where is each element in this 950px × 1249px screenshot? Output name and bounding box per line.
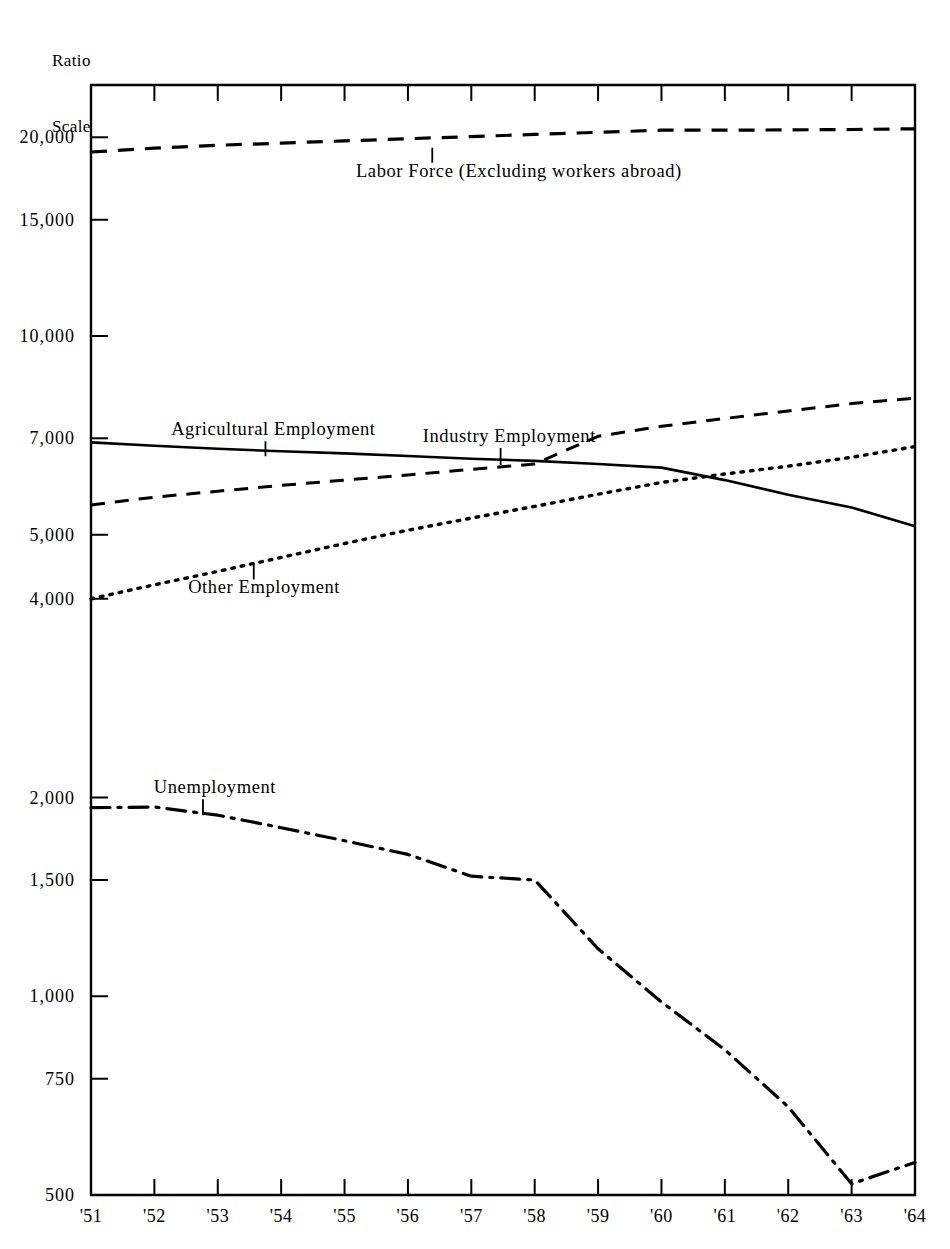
y-tick-label: 5,000 [30, 525, 76, 545]
series-line [91, 442, 915, 526]
y-tick-label: 750 [45, 1069, 75, 1089]
y-tick-label: 1,500 [30, 870, 76, 890]
y-tick-label: 1,000 [30, 986, 76, 1006]
y-tick-label: 7,000 [30, 428, 76, 448]
axis-frame [91, 85, 915, 1195]
x-tick-label: '64 [904, 1206, 927, 1226]
series-label: Unemployment [154, 777, 277, 797]
series-line [91, 398, 915, 505]
series-label: Industry Employment [423, 426, 597, 446]
series-label: Labor Force (Excluding workers abroad) [356, 161, 682, 182]
series-line [91, 807, 915, 1184]
x-tick-label: '62 [777, 1206, 800, 1226]
series-lines [91, 129, 915, 1184]
y-tick-label: 10,000 [20, 326, 76, 346]
y-tick-label: 20,000 [20, 127, 76, 147]
x-axis-ticks [154, 85, 851, 1195]
x-tick-label: '59 [587, 1206, 610, 1226]
y-axis-ticks [91, 137, 108, 1078]
chart-container: Ratio Scale 20,00015,00010,0007,0005,000… [0, 0, 950, 1249]
x-tick-label: '55 [333, 1206, 356, 1226]
x-tick-label: '54 [270, 1206, 293, 1226]
x-tick-label: '58 [523, 1206, 546, 1226]
y-tick-label: 4,000 [30, 589, 76, 609]
chart-plot: 20,00015,00010,0007,0005,0004,0002,0001,… [0, 0, 950, 1249]
y-tick-label: 500 [45, 1185, 75, 1205]
x-tick-label: '61 [713, 1206, 736, 1226]
series-annotations: Labor Force (Excluding workers abroad)Ag… [154, 148, 682, 816]
y-tick-label: 2,000 [30, 788, 76, 808]
y-tick-label: 15,000 [20, 210, 76, 230]
x-axis-labels: '51'52'53'54'55'56'57'58'59'60'61'62'63'… [80, 1206, 927, 1226]
x-tick-label: '60 [650, 1206, 673, 1226]
series-label: Agricultural Employment [171, 419, 376, 439]
x-tick-label: '51 [80, 1206, 103, 1226]
x-tick-label: '53 [206, 1206, 229, 1226]
x-tick-label: '57 [460, 1206, 483, 1226]
x-tick-label: '56 [397, 1206, 420, 1226]
x-tick-label: '63 [840, 1206, 863, 1226]
series-line [91, 129, 915, 152]
y-axis-labels: 20,00015,00010,0007,0005,0004,0002,0001,… [20, 127, 76, 1205]
series-label: Other Employment [188, 577, 340, 597]
x-tick-label: '52 [143, 1206, 166, 1226]
series-line [91, 447, 915, 599]
